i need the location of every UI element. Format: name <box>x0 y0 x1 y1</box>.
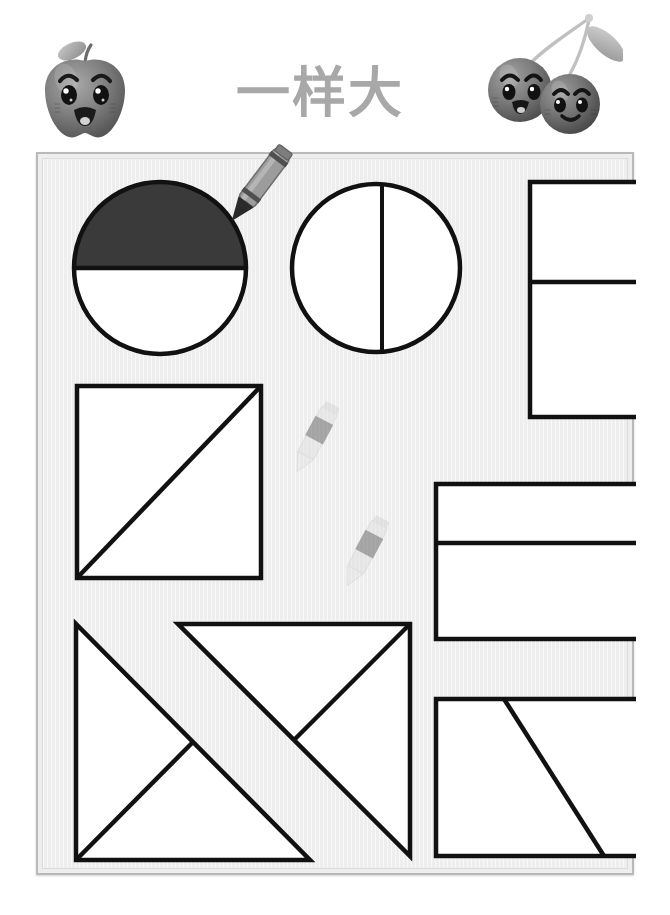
worksheet-page: 一样大 <box>0 0 670 915</box>
deco-crayon-1-icon <box>288 398 343 478</box>
shape-rectangle-tall-split-horizontal <box>530 182 636 417</box>
crayon-pointer-icon <box>218 140 298 235</box>
shape-circle-split-vertical <box>292 184 460 352</box>
shapes-layer <box>38 154 636 877</box>
shape-square-split-diagonal <box>77 386 261 578</box>
shape-triangles-crossed-pair <box>76 624 410 860</box>
worksheet-title: 一样大 <box>205 62 435 126</box>
worksheet-header: 一样大 <box>0 0 670 150</box>
deco-crayon-2-icon <box>338 512 393 592</box>
cherries-mascot-icon <box>478 2 623 147</box>
worksheet-panel <box>36 152 634 875</box>
apple-mascot-icon <box>35 38 135 143</box>
shape-rectangle-split-slant <box>436 699 636 856</box>
shape-rectangle-wide-split-horizontal <box>436 484 636 639</box>
